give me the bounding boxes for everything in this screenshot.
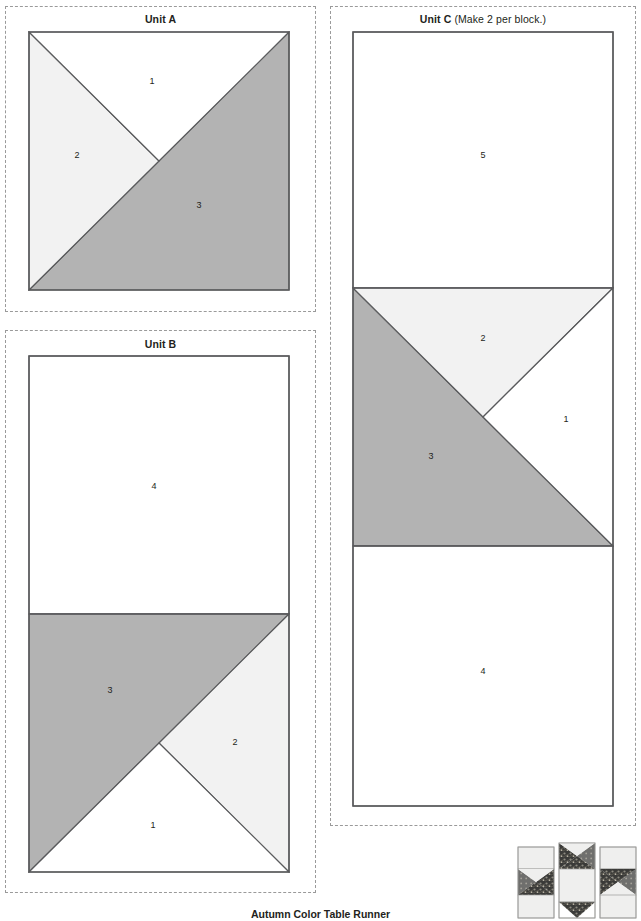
- unit-c-diagram: 5 2 1 3 4: [352, 31, 614, 807]
- unit-b-piece-4-shape: [29, 356, 289, 614]
- footer-title: Autumn Color Table Runner: [0, 908, 641, 920]
- unit-c-title-strong: Unit C: [420, 13, 452, 25]
- pattern-sheet: Unit A 1 2 3 Unit B 4 3 2 1: [0, 0, 641, 921]
- unit-a-piece-2-label: 2: [74, 150, 79, 160]
- unit-b-piece-3-label: 3: [107, 685, 112, 695]
- unit-a-diagram: 1 2 3: [28, 31, 290, 291]
- unit-c-piece-2-label: 2: [480, 333, 485, 343]
- unit-c-piece-1-label: 1: [563, 414, 568, 424]
- unit-c-piece-4-label: 4: [480, 666, 485, 676]
- unit-c-title-normal: (Make 2 per block.): [454, 13, 546, 25]
- unit-a-piece-3-label: 3: [196, 200, 201, 210]
- unit-b-piece-4-label: 4: [151, 481, 156, 491]
- unit-a-piece-1-label: 1: [149, 76, 154, 86]
- unit-a-title-strong: Unit A: [145, 13, 176, 25]
- unit-b-diagram: 4 3 2 1: [28, 355, 290, 873]
- preview-block-center: [559, 843, 595, 918]
- unit-c-piece-3-label: 3: [428, 451, 433, 461]
- unit-c-piece-5-label: 5: [480, 150, 485, 160]
- unit-b-title-strong: Unit B: [145, 338, 177, 350]
- unit-c-title: Unit C(Make 2 per block.): [330, 13, 636, 25]
- unit-b-piece-2-label: 2: [232, 737, 237, 747]
- unit-b-title: Unit B: [5, 338, 316, 350]
- unit-b-piece-1-label: 1: [150, 820, 155, 830]
- unit-a-title: Unit A: [5, 13, 316, 25]
